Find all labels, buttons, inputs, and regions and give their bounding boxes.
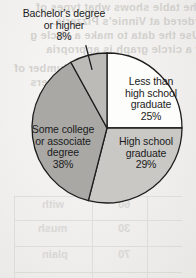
slice-label-line-3: graduate [131, 98, 172, 110]
slice-label-high-school-graduate: High school graduate 29% [109, 136, 183, 171]
scanned-chart-page: The table shows what types of ordered at… [0, 0, 196, 278]
slice-label-line-1: Some college [32, 123, 94, 135]
slice-label-percent: 29% [109, 159, 183, 171]
slice-label-percent: 38% [22, 159, 104, 171]
slice-label-line-1: High school [119, 135, 173, 147]
slice-label-line-1: Less than [129, 75, 174, 87]
slice-label-line-2: or associate [35, 135, 90, 147]
slice-label-percent: 25% [113, 111, 189, 123]
slice-label-percent: 8% [6, 31, 122, 43]
slice-label-line-2: high school [125, 87, 177, 99]
slice-label-bachelors-or-higher: Bachelor's degree or higher 8% [6, 8, 122, 43]
slice-label-line-1: Bachelor's degree [23, 7, 106, 19]
slice-label-some-college-or-associate: Some college or associate degree 38% [22, 124, 104, 170]
slice-label-less-than-high-school: Less than high school graduate 25% [113, 76, 189, 122]
slice-label-line-2: graduate [126, 147, 167, 159]
slice-label-line-3: degree [47, 146, 79, 158]
slice-label-line-2: or higher [44, 19, 85, 31]
